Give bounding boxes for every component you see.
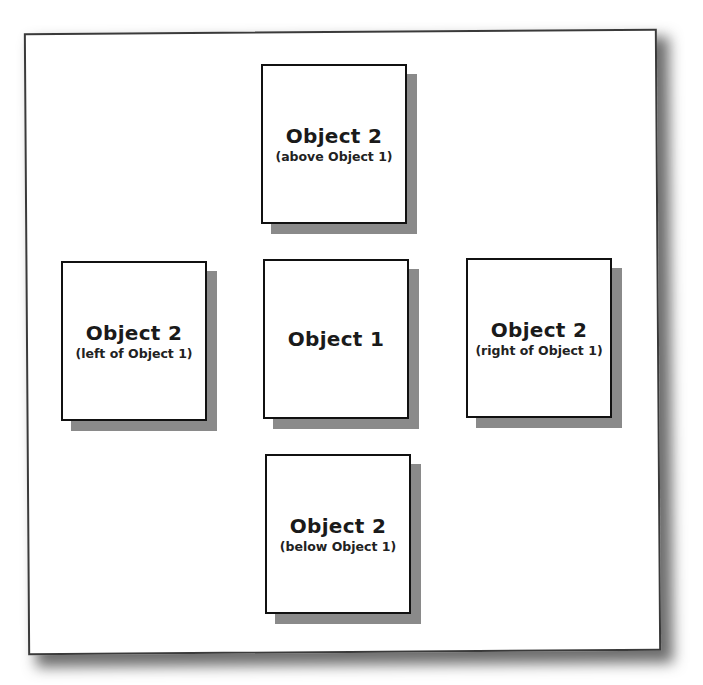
object-2-left-title: Object 2 (86, 321, 182, 345)
object-1-title: Object 1 (288, 327, 384, 351)
object-2-left-subtitle: (left of Object 1) (75, 346, 192, 362)
object-1-box: Object 1 (263, 259, 409, 419)
object-2-above-subtitle: (above Object 1) (275, 149, 392, 165)
object-2-above-title: Object 2 (286, 124, 382, 148)
object-2-above-box: Object 2 (above Object 1) (261, 64, 407, 224)
object-2-below-box: Object 2 (below Object 1) (265, 454, 411, 614)
object-2-right-box: Object 2 (right of Object 1) (466, 258, 612, 418)
object-2-left-box: Object 2 (left of Object 1) (61, 261, 207, 421)
object-2-below-title: Object 2 (290, 514, 386, 538)
object-2-below-subtitle: (below Object 1) (280, 539, 396, 555)
object-2-right-subtitle: (right of Object 1) (475, 343, 602, 359)
object-2-right-title: Object 2 (491, 318, 587, 342)
